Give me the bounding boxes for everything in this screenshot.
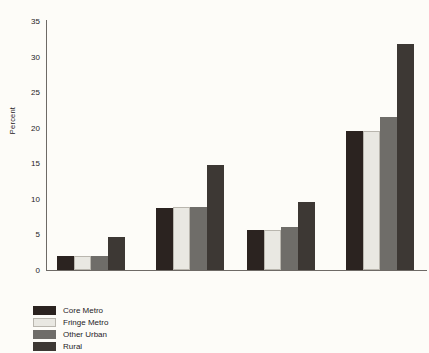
bar-fringe-group-2 xyxy=(264,230,281,270)
legend-label-fringe: Fringe Metro xyxy=(63,318,108,327)
legend-item-fringe: Fringe Metro xyxy=(33,317,108,328)
bar-urban-group-1 xyxy=(190,207,207,270)
legend-swatch-core xyxy=(33,306,56,315)
bar-group-3 xyxy=(332,21,427,270)
x-axis-line xyxy=(46,270,427,271)
legend-swatch-rural xyxy=(33,342,56,351)
bar-core-group-1 xyxy=(156,208,173,270)
bar-urban-group-0 xyxy=(91,256,108,270)
legend-item-rural: Rural xyxy=(33,341,108,352)
bar-group-1 xyxy=(142,21,237,270)
y-tick-label-3: 15 xyxy=(14,159,40,168)
bar-core-group-2 xyxy=(247,230,264,270)
y-tick-label-4: 20 xyxy=(14,123,40,132)
legend-swatch-fringe xyxy=(33,318,56,327)
bar-fringe-group-3 xyxy=(363,131,380,270)
bar-rural-group-0 xyxy=(108,237,125,270)
legend: Core MetroFringe MetroOther UrbanRural xyxy=(33,305,108,353)
legend-swatch-urban xyxy=(33,330,56,339)
legend-label-rural: Rural xyxy=(63,342,82,351)
bar-core-group-0 xyxy=(57,256,74,270)
bar-core-group-3 xyxy=(346,131,363,270)
legend-item-urban: Other Urban xyxy=(33,329,108,340)
bar-fringe-group-0 xyxy=(74,256,91,270)
y-tick-label-5: 25 xyxy=(14,88,40,97)
y-tick-label-0: 0 xyxy=(14,266,40,275)
bar-group-0 xyxy=(47,21,142,270)
y-tick-label-2: 10 xyxy=(14,194,40,203)
y-axis-title: Percent xyxy=(8,91,17,151)
y-tick-label-7: 35 xyxy=(14,17,40,26)
bar-fringe-group-1 xyxy=(173,207,190,270)
plot-area xyxy=(47,21,427,270)
bar-urban-group-3 xyxy=(380,117,397,270)
legend-label-core: Core Metro xyxy=(63,306,103,315)
legend-item-core: Core Metro xyxy=(33,305,108,316)
y-tick-label-1: 5 xyxy=(14,230,40,239)
legend-label-urban: Other Urban xyxy=(63,330,107,339)
bar-rural-group-1 xyxy=(207,165,224,270)
bar-urban-group-2 xyxy=(281,227,298,270)
bar-rural-group-3 xyxy=(397,44,414,270)
y-tick-label-6: 30 xyxy=(14,52,40,61)
bar-group-2 xyxy=(237,21,332,270)
bar-rural-group-2 xyxy=(298,202,315,270)
